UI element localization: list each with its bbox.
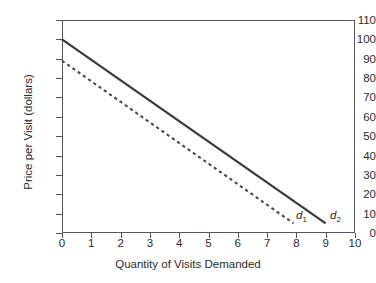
x-tick-label: 4 <box>176 237 182 249</box>
demand-curve-d1 <box>62 61 293 224</box>
y-tick-mark <box>56 20 62 21</box>
x-tick-label: 0 <box>59 237 65 249</box>
y-tick-label: 80 <box>363 72 376 84</box>
demand-curve-chart: d1 d2 Price per Visit (dollars) Quantity… <box>0 0 376 283</box>
x-tick-label: 5 <box>205 237 211 249</box>
y-tick-mark <box>56 156 62 157</box>
y-tick-mark <box>56 117 62 118</box>
curve-label-d1: d1 <box>296 209 307 224</box>
curve-label-d2-subscript: 2 <box>336 215 340 224</box>
x-tick-mark <box>150 233 151 238</box>
x-tick-mark <box>296 233 297 238</box>
y-tick-label: 30 <box>363 169 376 181</box>
y-tick-mark <box>56 194 62 195</box>
x-axis-title: Quantity of Visits Demanded <box>0 258 376 270</box>
x-tick-mark <box>326 233 327 238</box>
x-tick-label: 9 <box>322 237 328 249</box>
y-tick-label: 10 <box>363 208 376 220</box>
x-tick-mark <box>209 233 210 238</box>
curve-layer <box>0 0 376 283</box>
y-tick-label: 50 <box>363 130 376 142</box>
x-tick-label: 1 <box>88 237 94 249</box>
y-tick-label: 0 <box>370 227 376 239</box>
x-tick-mark <box>238 233 239 238</box>
x-tick-mark <box>267 233 268 238</box>
x-tick-mark <box>121 233 122 238</box>
demand-curve-d2 <box>62 39 326 223</box>
x-tick-label: 10 <box>349 237 362 249</box>
y-tick-mark <box>56 136 62 137</box>
y-axis-title: Price per Visit (dollars) <box>22 37 34 227</box>
y-tick-label: 90 <box>363 53 376 65</box>
y-tick-mark <box>56 214 62 215</box>
x-tick-label: 7 <box>264 237 270 249</box>
x-tick-mark <box>91 233 92 238</box>
curve-label-d2: d2 <box>330 209 341 224</box>
x-tick-label: 3 <box>147 237 153 249</box>
y-tick-mark <box>56 59 62 60</box>
curve-label-d1-subscript: 1 <box>302 215 306 224</box>
y-tick-label: 20 <box>363 188 376 200</box>
x-tick-mark <box>62 233 63 238</box>
y-tick-mark <box>56 97 62 98</box>
x-tick-label: 2 <box>117 237 123 249</box>
y-tick-mark <box>56 78 62 79</box>
y-tick-label: 40 <box>363 150 376 162</box>
y-tick-label: 110 <box>358 14 376 26</box>
x-tick-mark <box>355 233 356 238</box>
y-tick-label: 70 <box>363 91 376 103</box>
y-tick-mark <box>56 175 62 176</box>
y-tick-mark <box>56 39 62 40</box>
x-tick-mark <box>179 233 180 238</box>
y-tick-label: 100 <box>357 33 376 45</box>
y-tick-label: 60 <box>363 111 376 123</box>
x-tick-label: 8 <box>293 237 299 249</box>
x-tick-label: 6 <box>235 237 241 249</box>
